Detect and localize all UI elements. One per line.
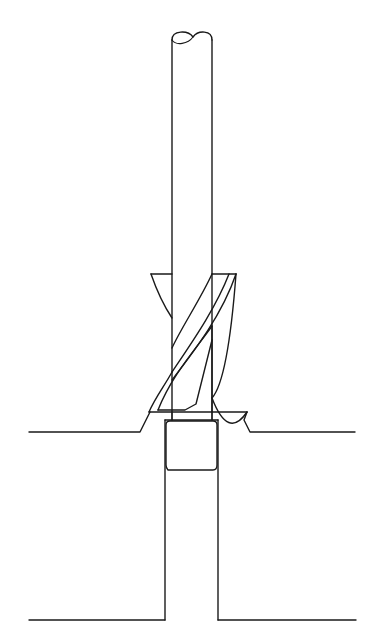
workpiece bbox=[29, 412, 356, 620]
countersink-drill-diagram bbox=[0, 0, 376, 631]
fluted-body bbox=[149, 274, 247, 412]
countersink-collar bbox=[151, 274, 247, 423]
pilot bbox=[165, 412, 218, 470]
